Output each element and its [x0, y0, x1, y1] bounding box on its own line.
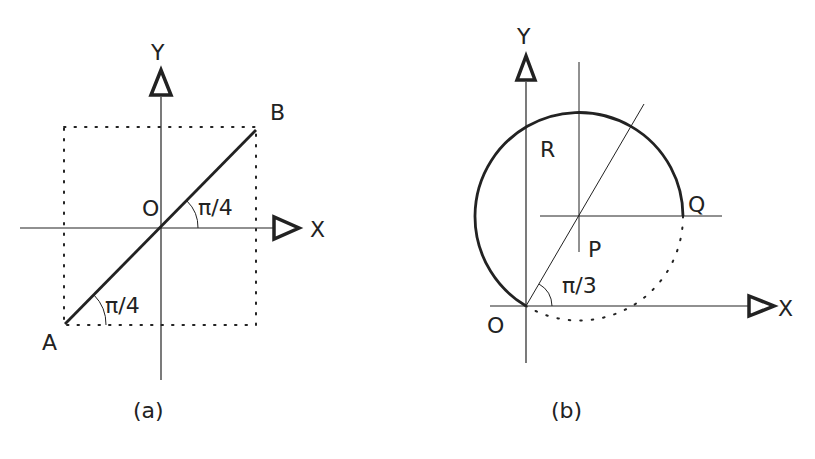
- y-axis-label-a: Y: [150, 40, 165, 65]
- point-q-label: Q: [688, 192, 705, 217]
- angle-arc-origin: [187, 201, 198, 228]
- caption-b: (b): [551, 398, 582, 423]
- origin-label-b: O: [487, 313, 504, 338]
- x-arrow-head-icon: [274, 217, 299, 239]
- point-p-label: P: [588, 237, 601, 262]
- angle-label-origin-a: π/4: [198, 195, 233, 220]
- figure-a: Y X B A O π/4 π/4 (a): [20, 40, 325, 423]
- figure-b: Y X R Q P π/3 O (b): [475, 24, 793, 423]
- diagram-canvas: Y X B A O π/4 π/4 (a) Y X R Q P π/3 O (b…: [0, 0, 815, 459]
- angle-label-a: π/4: [105, 293, 140, 318]
- x-axis-label-a: X: [310, 217, 325, 242]
- point-b-label: B: [270, 100, 285, 125]
- caption-a: (a): [133, 398, 164, 423]
- point-a-label: A: [42, 330, 57, 355]
- y-arrow-head-icon-b: [517, 56, 535, 80]
- x-axis-label-b: X: [778, 296, 793, 321]
- x-arrow-head-icon-b: [749, 296, 774, 316]
- dotted-arc: [526, 216, 683, 321]
- angle-arc-pi-3: [539, 284, 552, 306]
- angle-label-pi-3: π/3: [562, 273, 597, 298]
- point-r-label: R: [540, 137, 555, 162]
- y-axis-label-b: Y: [516, 24, 531, 49]
- origin-label-a: O: [142, 196, 159, 221]
- y-arrow-head-icon: [151, 70, 171, 95]
